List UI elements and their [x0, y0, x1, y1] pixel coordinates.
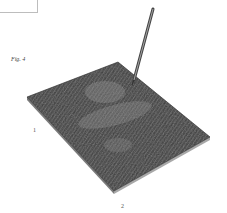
surface-highlight	[104, 138, 132, 152]
surface-highlight	[85, 81, 125, 103]
tablet-illustration	[0, 0, 227, 213]
tablet-surface	[27, 62, 210, 191]
stylus-pen	[132, 9, 153, 85]
